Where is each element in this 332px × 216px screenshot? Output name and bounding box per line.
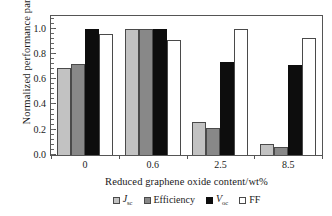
- bar-group: [187, 16, 255, 155]
- legend-swatch: [206, 197, 213, 204]
- y-axis-minor-tick: [51, 134, 54, 135]
- plot-area: 0.00.20.40.60.81.000.62.58.5: [50, 15, 323, 156]
- legend-item: FF: [239, 195, 260, 205]
- bar: [192, 122, 206, 155]
- legend-label: FF: [249, 195, 260, 205]
- legend-swatch: [113, 197, 120, 204]
- x-axis-tick-mark: [51, 155, 52, 159]
- bar: [71, 64, 85, 155]
- bar: [125, 29, 139, 155]
- y-axis-minor-tick: [51, 63, 54, 64]
- legend-label: Jsc: [123, 194, 133, 207]
- x-axis-tick-mark: [322, 155, 323, 159]
- y-axis-minor-tick: [51, 88, 54, 89]
- legend-item: Efficiency: [144, 195, 195, 205]
- x-axis-tick-label: 0: [82, 160, 87, 170]
- x-axis-tick-label: 0.6: [146, 160, 159, 170]
- bar: [302, 38, 316, 155]
- y-axis-minor-tick: [51, 119, 54, 120]
- legend-item: Voc: [206, 194, 228, 207]
- y-axis-minor-tick: [51, 73, 54, 74]
- y-axis-minor-tick: [51, 93, 54, 94]
- x-axis-tick-label: 2.5: [214, 160, 227, 170]
- bar-groups: [51, 16, 322, 155]
- legend-label: Voc: [216, 194, 228, 207]
- y-axis-minor-tick: [51, 38, 54, 39]
- y-axis-tick-label: 0.0: [34, 150, 47, 160]
- y-axis-minor-tick: [51, 98, 54, 99]
- bar: [220, 62, 234, 156]
- y-axis-minor-tick: [51, 18, 54, 19]
- y-axis-minor-tick: [51, 124, 54, 125]
- y-axis-tick-label: 0.6: [34, 74, 47, 84]
- bar-group: [119, 16, 187, 155]
- bar: [288, 65, 302, 155]
- y-axis-minor-tick: [51, 58, 54, 59]
- chart-legend: JscEfficiencyVocFF: [50, 194, 323, 207]
- y-axis-minor-tick: [51, 144, 54, 145]
- y-axis-minor-tick: [51, 33, 54, 34]
- y-axis-minor-tick: [51, 149, 54, 150]
- y-axis-tick-label: 0.2: [34, 125, 47, 135]
- bar: [206, 128, 220, 155]
- bar: [153, 29, 167, 155]
- x-axis-tick-mark: [187, 155, 188, 159]
- y-axis-minor-tick: [51, 78, 54, 79]
- y-axis-minor-tick: [51, 43, 54, 44]
- x-axis-tick-mark: [119, 155, 120, 159]
- legend-item: Jsc: [113, 194, 133, 207]
- y-axis-tick-label: 1.0: [34, 24, 47, 34]
- bar-chart-figure: Normalized performance parameters 0.00.2…: [0, 0, 332, 216]
- bar: [139, 29, 153, 155]
- y-axis-minor-tick: [51, 68, 54, 69]
- x-axis-title: Reduced graphene oxide content/wt%: [50, 176, 323, 187]
- x-axis-tick-mark: [254, 155, 255, 159]
- bar-group: [51, 16, 119, 155]
- bar: [99, 34, 113, 155]
- y-axis-minor-tick: [51, 139, 54, 140]
- y-axis-minor-tick: [51, 48, 54, 49]
- legend-swatch: [144, 197, 151, 204]
- y-axis-minor-tick: [51, 109, 54, 110]
- bar: [85, 29, 99, 155]
- bar: [167, 40, 181, 155]
- y-axis-minor-tick: [51, 129, 54, 130]
- y-axis-tick-label: 0.4: [34, 99, 47, 109]
- legend-label: Efficiency: [154, 195, 195, 205]
- x-axis-tick-label: 8.5: [282, 160, 295, 170]
- y-axis-minor-tick: [51, 114, 54, 115]
- y-axis-minor-tick: [51, 28, 54, 29]
- y-axis-minor-tick: [51, 103, 54, 104]
- bar: [234, 29, 248, 155]
- bar-group: [254, 16, 322, 155]
- y-axis-minor-tick: [51, 83, 54, 84]
- bar: [260, 144, 274, 155]
- y-axis-minor-tick: [51, 53, 54, 54]
- bar: [57, 68, 71, 155]
- legend-swatch: [239, 197, 246, 204]
- y-axis-tick-label: 0.8: [34, 49, 47, 59]
- y-axis-minor-tick: [51, 23, 54, 24]
- bar: [274, 147, 288, 155]
